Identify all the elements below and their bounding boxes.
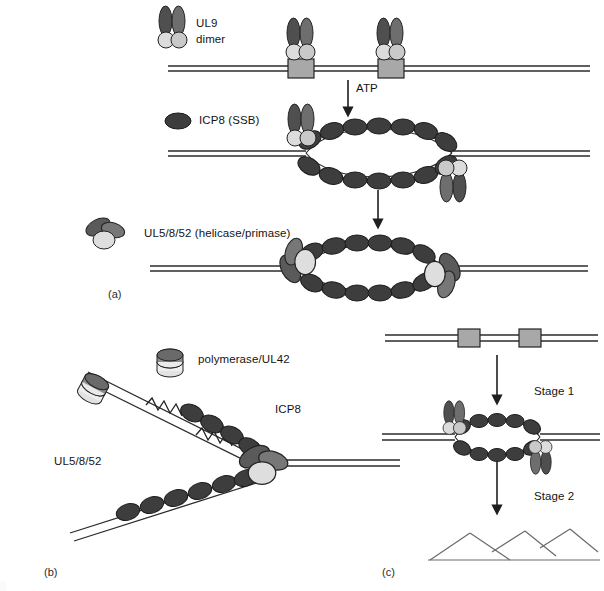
- origin-box: [519, 329, 541, 347]
- label-ul9-dimer: dimer: [196, 33, 225, 45]
- panel-a: [83, 6, 590, 301]
- figure-canvas: UL9 dimer ICP8 (SSB) ATP UL5/8/52 (helic…: [0, 0, 604, 591]
- label-stage-2: Stage 2: [534, 490, 574, 502]
- panel-c-ul9-right: [529, 441, 552, 475]
- panel-a-step1-ul9-left: [286, 18, 315, 60]
- legend-icp8-glyph: [165, 113, 191, 129]
- label-ul5-8-52: UL5/8/52: [54, 455, 101, 467]
- label-icp8: ICP8: [275, 403, 301, 415]
- branch: [430, 533, 470, 560]
- panel-a-step2-ul9-right: [438, 160, 467, 202]
- legend-polymerase-ul42-glyph: [157, 349, 183, 377]
- branch: [492, 531, 525, 552]
- icp8-bead-chain-top: [298, 235, 439, 267]
- label-polymerase-ul42: polymerase/UL42: [198, 353, 290, 365]
- branch: [570, 529, 598, 552]
- icp8-bead-chain-lagging: [114, 467, 260, 524]
- panel-label-b: (b): [44, 566, 57, 578]
- label-ul9: UL9: [196, 17, 217, 29]
- branch: [470, 533, 510, 560]
- panel-b: [70, 349, 400, 541]
- legend-ul9-dimer-glyph: [158, 6, 187, 48]
- panel-a-step1-dna: [168, 59, 590, 78]
- origin-box: [288, 59, 314, 78]
- label-helicase-primase: UL5/8/52 (helicase/primase): [144, 227, 291, 239]
- rna-primer: [146, 398, 182, 416]
- panel-a-step3: [150, 235, 588, 301]
- panel-c: [382, 329, 600, 560]
- label-stage-1: Stage 1: [534, 385, 574, 397]
- legend-helicase-primase-glyph: [83, 214, 127, 249]
- branch: [525, 531, 556, 556]
- label-atp: ATP: [356, 82, 378, 94]
- icp8-bead-chain-bottom: [298, 269, 439, 301]
- panel-c-stage1-bubble: [382, 401, 600, 474]
- panel-c-stage2-concatemers: [428, 529, 600, 560]
- label-icp8-ssb: ICP8 (SSB): [199, 114, 259, 126]
- panel-c-ul9-left: [443, 401, 466, 435]
- icp8-bead-chain-bottom: [295, 152, 461, 189]
- origin-box: [378, 59, 404, 78]
- panel-c-duplex: [385, 329, 598, 347]
- scan-artifact-strip: [0, 581, 604, 591]
- icp8-bead-chain-top: [296, 118, 461, 156]
- panel-a-step2-ul9-left: [287, 104, 316, 146]
- branch: [540, 529, 570, 548]
- replication-diagram: [0, 0, 604, 591]
- panel-b-leading-polymerase: [75, 370, 111, 407]
- panel-label-c: (c): [382, 566, 395, 578]
- panel-a-step1-ul9-right: [376, 18, 405, 60]
- origin-box: [458, 329, 480, 347]
- panel-label-a: (a): [108, 288, 121, 300]
